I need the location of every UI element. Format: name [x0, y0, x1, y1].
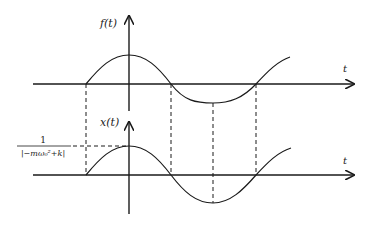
fraction-numerator: 1	[40, 135, 46, 145]
top-plot: f(t) t	[33, 16, 354, 111]
top-t-label: t	[343, 63, 348, 74]
top-f-curve	[86, 55, 290, 103]
fraction-denominator: |−mω₀²+k|	[21, 149, 65, 158]
f-of-t-label: f(t)	[99, 17, 117, 30]
amplitude-fraction: 1 |−mω₀²+k|	[17, 135, 71, 158]
forced-oscillation-diagram: f(t) t x(t) t 1 |−mω₀²+k|	[0, 0, 370, 228]
bottom-plot: x(t) t 1 |−mω₀²+k|	[17, 116, 354, 214]
bottom-t-label: t	[343, 155, 348, 166]
x-of-t-label: x(t)	[100, 116, 119, 129]
